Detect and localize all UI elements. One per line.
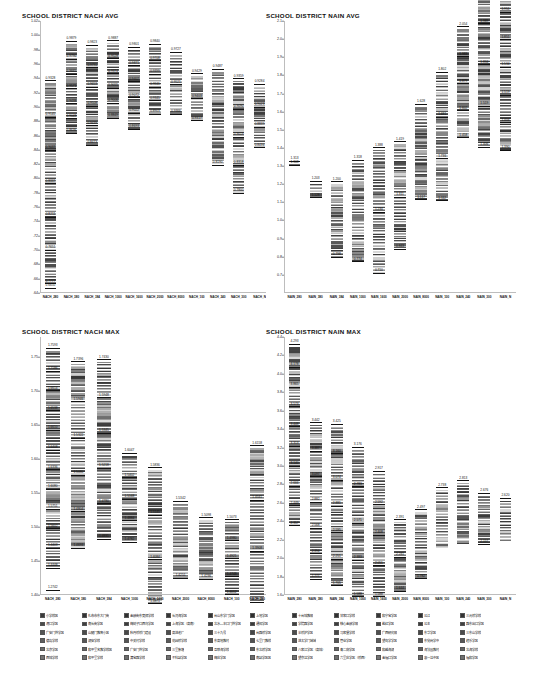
legend-item[interactable]: 小学校区 [40,612,80,619]
y-tick-label: 1.75 [22,355,38,359]
legend-item[interactable]: 秋丹桥桥门建设 [124,629,164,636]
legend-swatch-icon [334,647,339,652]
legend-item[interactable]: 花园桥学校 [166,637,206,644]
legend-item[interactable]: 西城学校 [40,654,80,661]
legend-item[interactable]: 半桥护学区 [292,629,332,636]
legend-item[interactable]: 上地学区 [250,612,290,619]
value-label: 2.620 [501,493,509,497]
legend-item[interactable]: 惠一达中区 [418,654,458,661]
legend-item[interactable]: 核心金融学部 [334,620,374,627]
legend-item[interactable]: 海法国教村 [418,646,458,653]
legend-item[interactable]: 路东出口学区 [460,620,500,627]
legend-item[interactable]: 望岛学学区 [376,637,416,644]
y-tick-mark [38,459,40,460]
legend-item[interactable]: 梅树子口西鸟学区 [124,620,164,627]
legend-item[interactable]: 广安门外学区 [40,629,80,636]
y-tick-mark [38,21,40,22]
legend-swatch-icon [208,647,213,652]
y-tick-label: 2.0 [266,556,282,560]
legend-item[interactable]: 梅庄学区 [208,654,248,661]
value-rule [352,560,364,561]
legend-item[interactable]: 六里庄学区（桥西） [334,654,374,661]
legend-item[interactable]: 青二廚学区 [334,646,374,653]
legend-item[interactable]: 高进老厂 [166,629,206,636]
legend-item[interactable]: 上海学区（高南） [166,620,206,627]
legend-item[interactable]: 广安门外学区 [124,646,164,653]
legend-item[interactable]: 台山东学门学区 [208,612,248,619]
legend-item[interactable]: 趋乐学区 [460,637,500,644]
value-label: 0.9403 [192,94,202,98]
y-tick-label: 4.0 [266,372,282,376]
legend-item[interactable]: 中关村学校 [124,637,164,644]
legend-item[interactable]: 和平里名教学校区 [82,646,122,653]
legend-item[interactable]: 金融街东竞师学校 [124,612,164,619]
value-rule [373,212,385,213]
legend-item[interactable]: 七里门教校 [250,637,290,644]
legend-item[interactable]: 东高地教村 [208,637,248,644]
legend-item[interactable]: 通知学区 [250,620,290,627]
legend-item[interactable]: 东北桥学区 [250,646,290,653]
y-tick-label: .82 [22,162,38,166]
value-label: 1.802 [438,67,446,71]
legend-item[interactable]: 公江 [418,612,458,619]
legend-item[interactable]: 北海学校 [460,646,500,653]
legend-item[interactable]: 和越海湖 [376,646,416,653]
legend-item[interactable]: 金福口学区 [376,654,416,661]
legend-item[interactable]: 广西研究部 [376,629,416,636]
legend-item[interactable]: 德角学校 [40,637,80,644]
legend-item[interactable]: 学院路学区 [292,620,332,627]
value-rule [107,73,119,74]
value-rule [107,103,119,104]
legend-item[interactable]: 清宝路学校 [124,654,164,661]
legend-item[interactable]: 湖安学校 [82,637,122,644]
legend-item[interactable]: 十台城教部 [292,612,332,619]
y-tick-label: 4.4 [266,335,282,339]
legend-item[interactable]: 马家堡学校 [334,629,374,636]
legend-item[interactable]: 望京达学区 [292,654,332,661]
legend-swatch-icon [82,655,87,660]
legend-label: 南长街学区 [88,621,103,626]
legend-item[interactable]: 盐红学区 [376,620,416,627]
legend-item[interactable]: 不科站学区 [166,654,206,661]
value-rule [373,147,385,148]
value-rule [352,523,364,524]
legend-item[interactable]: 东华学区 [418,629,458,636]
y-tick-label: 1.5 [266,128,282,132]
outlier-label: 0.6650 [46,283,56,287]
legend-item[interactable]: 山腿门教育小区 [82,629,122,636]
panel-nain-max: SCHOOL DISTRICT NAIN MAX 1.61.82.02.22.4… [266,328,516,610]
legend-item[interactable]: 进太学门域域 [292,637,332,644]
legend-item[interactable]: 台路桥学区 [250,629,290,636]
value-rule [128,47,140,48]
value-label: 0.9317 [192,116,202,120]
legend-item[interactable]: 管业学区 [334,637,374,644]
legend-item[interactable]: 北水—本口门外学区 [208,620,248,627]
value-label: 1.203 [312,176,320,180]
legend-item[interactable]: 北京学区 [40,646,80,653]
legend-item[interactable]: 三十九号 [208,629,248,636]
legend-label: 德角学校 [46,638,58,643]
legend-item[interactable]: 三里集塘 [166,646,206,653]
legend-swatch-icon [124,647,129,652]
legend-item[interactable]: 公主 [418,620,458,627]
legend-item[interactable]: 南站学区区 [250,654,290,661]
legend-item[interactable]: 福和学区 [460,654,500,661]
legend-item[interactable]: 港口学区 [40,620,80,627]
legend-item[interactable]: 互联海学校 [208,646,248,653]
screenshot-root: SCHOOL DISTRICT NACH AVG .64.66.68.70.72… [0,0,537,679]
legend-label: 马家堡学校 [340,630,355,635]
legend-item[interactable]: 札布市东大门街 [82,612,122,619]
y-tick-mark [282,503,284,504]
legend-item[interactable]: 东觉岗学中 [418,637,458,644]
legend-swatch-icon [376,630,381,635]
legend-item[interactable]: 和平里学校 [82,654,122,661]
legend-item[interactable]: 南长街学区 [82,620,122,627]
y-tick-label: .88 [22,119,38,123]
legend-item[interactable]: 和宁宝学区 [376,612,416,619]
legend-item[interactable]: 甘家口学校 [334,612,374,619]
legend-item[interactable]: 三元桥学校 [460,612,500,619]
legend-item[interactable]: 八家江学区（高城） [292,646,332,653]
legend-item[interactable]: 长河海学区 [166,612,206,619]
x-tick-label: NAIN_100 [435,597,449,601]
legend-item[interactable]: 三东山学校 [460,629,500,636]
